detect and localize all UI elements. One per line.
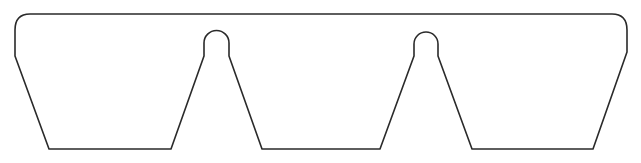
outline-diagram <box>0 0 641 163</box>
shape-outline <box>15 14 627 149</box>
